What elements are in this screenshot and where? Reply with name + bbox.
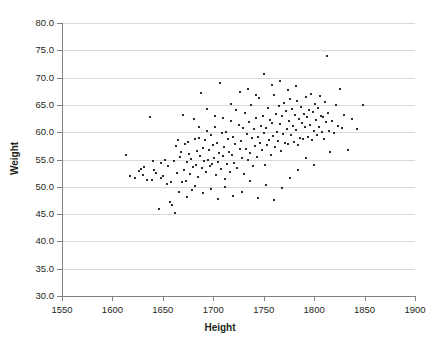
data-point	[217, 198, 219, 200]
x-tick-mark	[415, 296, 416, 301]
data-point	[162, 175, 164, 177]
data-point	[182, 114, 184, 116]
data-point	[293, 141, 295, 143]
x-tick-mark	[365, 296, 366, 301]
data-point	[261, 149, 263, 151]
data-point	[288, 120, 290, 122]
y-tick-label: 45.0	[8, 208, 54, 219]
x-tick-mark	[62, 296, 63, 301]
data-point	[167, 165, 169, 167]
data-point	[290, 134, 292, 136]
data-point	[226, 163, 228, 165]
data-point	[244, 112, 246, 114]
data-point	[231, 154, 233, 156]
data-point	[254, 145, 256, 147]
data-point	[257, 136, 259, 138]
data-point	[200, 92, 202, 94]
y-tick-label: 65.0	[8, 99, 54, 110]
data-point	[249, 152, 251, 154]
data-point	[281, 187, 283, 189]
data-point	[289, 98, 291, 100]
gridline	[62, 269, 415, 270]
x-tick-mark	[163, 296, 164, 301]
data-point	[291, 108, 293, 110]
data-point	[205, 171, 207, 173]
data-point	[277, 140, 279, 142]
data-point	[169, 201, 171, 203]
data-point	[240, 140, 242, 142]
data-point	[158, 208, 160, 210]
y-tick-mark	[57, 241, 62, 242]
data-point	[297, 144, 299, 146]
data-point	[276, 131, 278, 133]
data-point	[321, 131, 323, 133]
data-point	[218, 152, 220, 154]
y-tick-label: 80.0	[8, 17, 54, 28]
data-point	[273, 94, 275, 96]
y-tick-mark	[57, 50, 62, 51]
y-tick-mark	[57, 160, 62, 161]
data-point	[265, 184, 267, 186]
gridline	[62, 214, 415, 215]
y-tick-mark	[57, 187, 62, 188]
data-point	[282, 133, 284, 135]
data-point	[305, 157, 307, 159]
data-point	[203, 160, 205, 162]
y-axis-label: Weight	[9, 128, 20, 188]
y-tick-label: 75.0	[8, 44, 54, 55]
data-point	[298, 118, 300, 120]
gridline	[62, 78, 415, 79]
data-point	[279, 123, 281, 125]
data-point	[186, 196, 188, 198]
data-point	[171, 204, 173, 206]
data-point	[300, 106, 302, 108]
data-point	[301, 122, 303, 124]
data-point	[260, 125, 262, 127]
data-point	[292, 125, 294, 127]
data-point	[253, 128, 255, 130]
data-point	[224, 178, 226, 180]
data-point	[151, 179, 153, 181]
data-point	[173, 160, 175, 162]
data-point	[316, 134, 318, 136]
data-point	[199, 155, 201, 157]
data-point	[297, 169, 299, 171]
data-point	[177, 139, 179, 141]
gridline	[62, 187, 415, 188]
data-point	[179, 156, 181, 158]
gridline	[62, 160, 415, 161]
data-point	[347, 149, 349, 151]
data-point	[296, 100, 298, 102]
data-point	[303, 113, 305, 115]
data-point	[318, 126, 320, 128]
data-point	[319, 95, 321, 97]
data-point	[140, 168, 142, 170]
x-tick-label: 1900	[390, 304, 440, 315]
data-point	[251, 137, 253, 139]
data-point	[266, 144, 268, 146]
data-point	[180, 151, 182, 153]
data-point	[314, 103, 316, 105]
y-tick-mark	[57, 269, 62, 270]
data-point	[333, 132, 335, 134]
data-point	[295, 85, 297, 87]
data-point	[129, 175, 131, 177]
data-point	[356, 128, 358, 130]
data-point	[326, 55, 328, 57]
y-tick-label: 40.0	[8, 235, 54, 246]
data-point	[239, 91, 241, 93]
gridline	[62, 241, 415, 242]
data-point	[271, 84, 273, 86]
data-point	[271, 122, 273, 124]
x-tick-label: 1750	[239, 304, 289, 315]
data-point	[322, 116, 324, 118]
gridline	[62, 132, 415, 133]
data-point	[194, 138, 196, 140]
data-point	[152, 160, 154, 162]
data-point	[230, 103, 232, 105]
data-point	[304, 126, 306, 128]
data-point	[286, 128, 288, 130]
data-point	[279, 80, 281, 82]
data-point	[166, 183, 168, 185]
gridline	[62, 23, 415, 24]
